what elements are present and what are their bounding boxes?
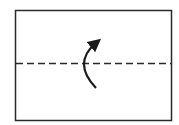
fold-diagram (0, 0, 179, 125)
paper-sheet (16, 11, 172, 121)
